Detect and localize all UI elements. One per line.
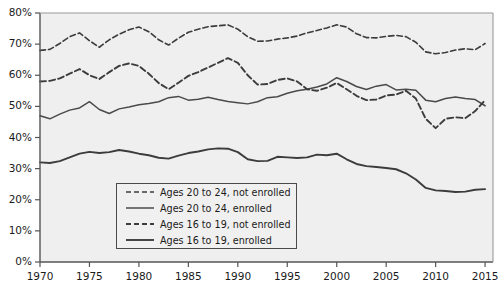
y-tick-label: 80%: [0, 6, 32, 18]
y-tick-label: 30%: [0, 162, 32, 174]
y-tick-label: 20%: [0, 193, 32, 205]
x-tick-label: 2005: [370, 270, 402, 282]
employment-rate-line-chart: 0%10%20%30%40%50%60%70%80% 1970197519801…: [0, 0, 504, 291]
x-tick-label: 2000: [321, 270, 353, 282]
legend-dashed-line-icon: [125, 186, 155, 198]
y-tick-label: 0%: [0, 255, 32, 267]
legend-item[interactable]: Ages 16 to 19, enrolled: [125, 232, 296, 248]
x-tick-label: 1970: [24, 270, 56, 282]
x-tick-label: 2010: [420, 270, 452, 282]
y-tick-label: 70%: [0, 37, 32, 49]
x-tick-label: 1990: [222, 270, 254, 282]
x-tick-label: 1995: [271, 270, 303, 282]
legend-label: Ages 20 to 24, enrolled: [160, 203, 272, 214]
x-tick-label: 1985: [172, 270, 204, 282]
x-tick-label: 1975: [73, 270, 105, 282]
legend-item[interactable]: Ages 16 to 19, not enrolled: [125, 216, 296, 232]
legend-item[interactable]: Ages 20 to 24, enrolled: [125, 200, 296, 216]
y-tick-label: 40%: [0, 131, 32, 143]
y-tick-label: 10%: [0, 224, 32, 236]
chart-legend: Ages 20 to 24, not enrolled Ages 20 to 2…: [116, 183, 297, 249]
legend-item[interactable]: Ages 20 to 24, not enrolled: [125, 184, 296, 200]
y-tick-label: 60%: [0, 68, 32, 80]
legend-label: Ages 16 to 19, enrolled: [160, 235, 272, 246]
x-tick-label: 2015: [469, 270, 501, 282]
legend-label: Ages 16 to 19, not enrolled: [160, 219, 291, 230]
y-tick-label: 50%: [0, 99, 32, 111]
legend-label: Ages 20 to 24, not enrolled: [160, 187, 291, 198]
legend-solid-line-icon: [125, 234, 155, 246]
x-tick-label: 1980: [123, 270, 155, 282]
legend-solid-line-icon: [125, 202, 155, 214]
legend-dashed-line-icon: [125, 218, 155, 230]
